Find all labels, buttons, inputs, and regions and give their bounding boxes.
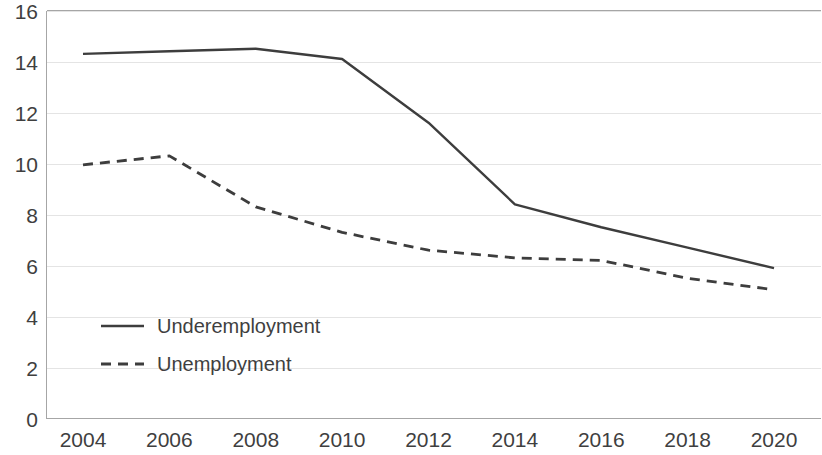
x-tick-label-2020: 2020 [751, 428, 798, 451]
y-tick-label-6: 6 [26, 255, 38, 278]
x-axis-tick-labels: 200420062008201020122014201620182020 [60, 428, 798, 451]
x-tick-label-2018: 2018 [664, 428, 711, 451]
x-tick-label-2014: 2014 [492, 428, 539, 451]
y-tick-label-14: 14 [15, 51, 39, 74]
x-tick-label-2012: 2012 [405, 428, 452, 451]
x-tick-label-2008: 2008 [232, 428, 279, 451]
y-tick-label-4: 4 [26, 306, 38, 329]
x-tick-label-2010: 2010 [319, 428, 366, 451]
x-tick-label-2016: 2016 [578, 428, 625, 451]
legend-label-underemployment: Underemployment [157, 315, 321, 337]
y-tick-label-10: 10 [15, 153, 38, 176]
legend-label-unemployment: Unemployment [157, 353, 292, 375]
x-tick-label-2006: 2006 [146, 428, 193, 451]
line-chart: 1614121086420 20042006200820102012201420… [0, 0, 822, 455]
y-tick-label-0: 0 [26, 408, 38, 431]
chart-canvas: 1614121086420 20042006200820102012201420… [0, 0, 822, 455]
y-tick-label-16: 16 [15, 0, 38, 23]
y-tick-label-8: 8 [26, 204, 38, 227]
chart-background [0, 0, 822, 455]
y-tick-label-2: 2 [26, 357, 38, 380]
x-tick-label-2004: 2004 [60, 428, 107, 451]
y-tick-label-12: 12 [15, 102, 38, 125]
